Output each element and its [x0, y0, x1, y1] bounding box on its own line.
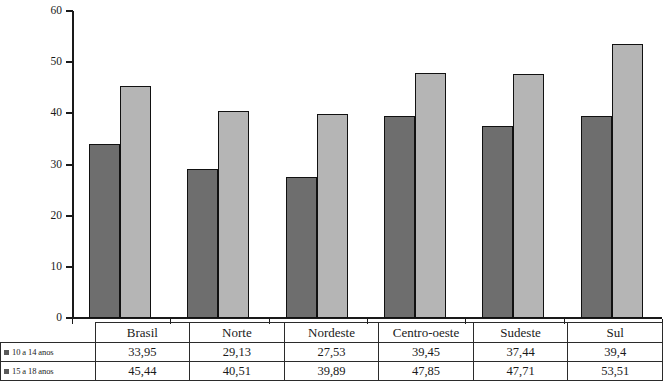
category-header-cell: Norte: [190, 323, 285, 343]
table-row: 10 a 14 anos33,9529,1327,5339,4537,4439,…: [1, 343, 663, 362]
data-value-cell: 33,95: [95, 343, 190, 362]
chart-figure: 0102030405060 BrasilNorteNordesteCentro-…: [0, 0, 664, 386]
bar-0: [286, 177, 317, 318]
data-value-cell: 39,45: [379, 343, 474, 362]
bar-group: [564, 11, 662, 318]
bar-1: [612, 44, 643, 318]
bar-0: [482, 126, 513, 318]
bar-group: [72, 11, 170, 318]
bars-layer: [72, 11, 662, 318]
table-corner-cell: [1, 323, 96, 343]
data-value-cell: 27,53: [284, 343, 379, 362]
y-tick-label: 20: [34, 210, 62, 221]
legend-label: 10 a 14 anos: [12, 347, 54, 357]
data-value-cell: 29,13: [190, 343, 285, 362]
bar-0: [384, 116, 415, 318]
y-tick-label: 40: [34, 107, 62, 118]
bar-1: [218, 111, 249, 318]
square-swatch-icon: [4, 350, 9, 355]
legend-label: 15 a 18 anos: [12, 366, 54, 376]
figure-caption: [36, 376, 636, 385]
legend-entry-0: 10 a 14 anos: [1, 343, 96, 362]
bar-1: [415, 73, 446, 318]
bar-0: [581, 116, 612, 318]
category-header-cell: Nordeste: [284, 323, 379, 343]
table-row: BrasilNorteNordesteCentro-oesteSudesteSu…: [1, 323, 663, 343]
y-tick-label: 50: [34, 56, 62, 67]
y-tick-label-container: 40: [30, 107, 62, 118]
y-tick-label: 30: [34, 159, 62, 170]
y-tick-label-container: 30: [30, 159, 62, 170]
data-value-cell: 39,4: [568, 343, 663, 362]
bar-1: [317, 114, 348, 318]
category-header-cell: Centro-oeste: [379, 323, 474, 343]
y-tick-label-container: 50: [30, 56, 62, 67]
data-table: BrasilNorteNordesteCentro-oesteSudesteSu…: [0, 322, 663, 381]
y-tick-label-container: 10: [30, 261, 62, 272]
square-swatch-icon: [4, 369, 9, 374]
bar-0: [187, 169, 218, 318]
y-tick-label: 10: [34, 261, 62, 272]
plot-area: 0102030405060: [0, 0, 664, 320]
data-value-cell: 37,44: [473, 343, 568, 362]
bar-1: [120, 86, 151, 319]
bar-group: [367, 11, 465, 318]
bar-group: [170, 11, 268, 318]
y-tick-label-container: 20: [30, 210, 62, 221]
bar-0: [89, 144, 120, 318]
y-tick-label: 60: [34, 5, 62, 16]
bar-group: [465, 11, 563, 318]
category-header-cell: Brasil: [95, 323, 190, 343]
y-tick-label-container: 60: [30, 5, 62, 16]
category-header-cell: Sudeste: [473, 323, 568, 343]
category-header-cell: Sul: [568, 323, 663, 343]
bar-group: [269, 11, 367, 318]
bar-1: [513, 74, 544, 318]
